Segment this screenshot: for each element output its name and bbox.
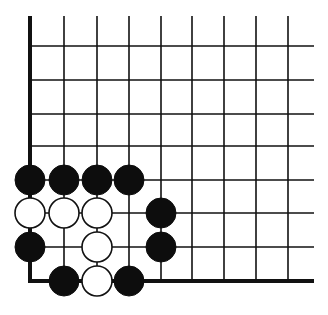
black-stone — [15, 232, 45, 262]
black-stone — [114, 266, 144, 296]
black-stone — [15, 165, 45, 195]
white-stone — [15, 198, 45, 228]
white-stone — [49, 198, 79, 228]
white-stone — [82, 198, 112, 228]
black-stone — [146, 232, 176, 262]
black-stone — [114, 165, 144, 195]
go-board — [0, 0, 328, 315]
white-stone — [82, 232, 112, 262]
black-stone — [82, 165, 112, 195]
black-stone — [49, 165, 79, 195]
black-stone — [146, 198, 176, 228]
black-stone — [49, 266, 79, 296]
white-stone — [82, 266, 112, 296]
stones-layer — [15, 165, 176, 296]
